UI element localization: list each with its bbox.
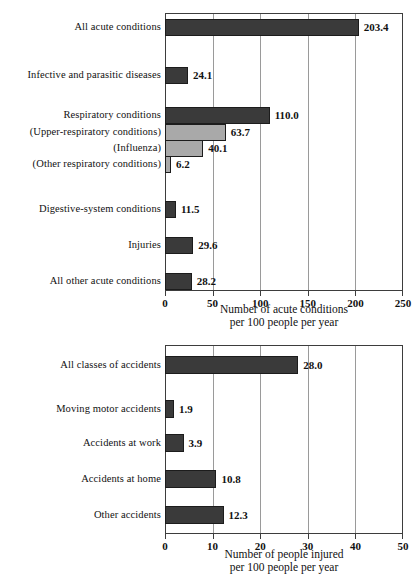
category-label: (Other respiratory conditions) [33,158,161,170]
bar-value-label: 28.0 [303,359,322,371]
bar [165,67,188,84]
category-label: (Influenza) [113,142,161,154]
bar-value-label: 203.4 [364,21,389,33]
category-label: Accidents at work [83,437,161,449]
bar-value-label: 10.8 [221,473,240,485]
gridline [355,346,356,533]
bar [165,124,226,141]
bar-value-label: 29.6 [198,239,217,251]
axis-tick [355,291,356,296]
bar-value-label: 110.0 [275,109,299,121]
category-label: Accidents at home [81,473,161,485]
x-axis-caption-line2: per 100 people per year [165,561,403,574]
category-label: All classes of accidents [60,359,161,371]
bar [165,237,193,254]
accidents-chart: 28.0All classes of accidents1.9Moving mo… [0,340,419,587]
gridline [260,346,261,533]
gridline [355,14,356,290]
axis-tick [355,534,356,539]
axis-tick [260,291,261,296]
bar-value-label: 1.9 [179,403,193,415]
bar-value-label: 3.9 [189,437,203,449]
bar [165,506,224,524]
bar-value-label: 6.2 [176,158,190,170]
acute-conditions-chart: 203.4All acute conditions24.1Infective a… [0,0,419,340]
bar [165,400,174,418]
bar-value-label: 24.1 [193,69,212,81]
category-label: All acute conditions [74,21,161,33]
bar-value-label: 12.3 [229,509,248,521]
gridline [308,346,309,533]
bar [165,140,203,157]
axis-tick [213,291,214,296]
bar [165,356,298,374]
x-axis-caption-line2: per 100 people per year [165,316,403,329]
axis-tick [165,534,166,539]
category-label: (Upper-respiratory conditions) [30,126,161,138]
axis-tick [308,291,309,296]
bar [165,434,184,452]
gridline [213,346,214,533]
bar-value-label: 28.2 [197,275,216,287]
category-label: Moving motor accidents [56,403,161,415]
category-label: Injuries [128,239,161,251]
gridline [308,14,309,290]
category-label: Respiratory conditions [63,109,161,121]
axis-tick [165,291,166,296]
bar [165,156,171,173]
bar [165,107,270,124]
x-axis-caption-line1: Number of people injured [165,548,403,561]
x-axis-caption: Number of acute conditionsper 100 people… [165,303,403,329]
bar [165,201,176,218]
x-axis-caption-line1: Number of acute conditions [165,303,403,316]
category-label: Infective and parasitic diseases [27,69,161,81]
bar-value-label: 40.1 [208,142,227,154]
category-label: Other accidents [94,509,161,521]
axis-tick [402,534,403,539]
bar [165,273,192,290]
category-label: Digestive-system conditions [39,203,161,215]
category-label: All other acute conditions [50,275,161,287]
x-axis-caption: Number of people injuredper 100 people p… [165,548,403,574]
axis-tick [260,534,261,539]
bar [165,470,216,488]
bar-value-label: 63.7 [231,126,250,138]
gridline [260,14,261,290]
axis-tick [213,534,214,539]
axis-tick [402,291,403,296]
axis-tick [308,534,309,539]
bar [165,19,359,36]
bar-value-label: 11.5 [181,203,200,215]
